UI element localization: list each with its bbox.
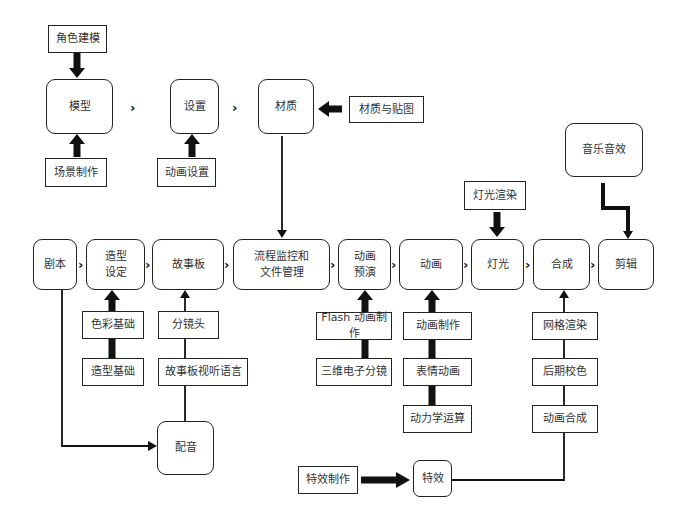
chevron-right-icon: › bbox=[145, 258, 150, 271]
color-grading-node: 后期校色 bbox=[532, 358, 598, 386]
form-basics-node: 造型基础 bbox=[82, 358, 144, 386]
dynamics-node: 动力学运算 bbox=[403, 405, 472, 433]
chevron-right-icon: › bbox=[130, 101, 135, 114]
music-sfx-node: 音乐音效 bbox=[565, 123, 643, 177]
shot-split-node: 分镜头 bbox=[158, 311, 219, 339]
chevron-right-icon: › bbox=[590, 258, 595, 271]
storyboard-av-language-node: 故事板视听语言 bbox=[158, 358, 248, 386]
light-render-node: 灯光渲染 bbox=[464, 181, 526, 210]
anim-settings-node: 动画设置 bbox=[157, 158, 216, 187]
character-modeling-node: 角色建模 bbox=[48, 25, 107, 53]
process-mgmt-node: 流程监控和 文件管理 bbox=[233, 239, 330, 290]
lighting-node: 灯光 bbox=[471, 239, 524, 290]
editing-node: 剪辑 bbox=[598, 239, 654, 290]
character-design-node: 造型 设定 bbox=[86, 239, 145, 290]
scene-making-node: 场景制作 bbox=[45, 158, 107, 187]
vfx-node: 特效 bbox=[413, 460, 452, 497]
chevron-right-icon: › bbox=[463, 258, 468, 271]
compositing-node: 合成 bbox=[533, 239, 590, 290]
chevron-right-icon: › bbox=[525, 258, 530, 271]
flash-anim-node: Flash 动画制作 bbox=[316, 312, 392, 340]
script-node: 剧本 bbox=[33, 239, 77, 290]
vfx-making-node: 特效制作 bbox=[298, 466, 358, 494]
facial-anim-node: 表情动画 bbox=[403, 358, 472, 386]
anim-preview-node: 动画 预演 bbox=[338, 239, 391, 290]
material-node: 材质 bbox=[258, 79, 314, 134]
material-mapping-node: 材质与贴图 bbox=[349, 96, 424, 123]
animation-node: 动画 bbox=[399, 239, 463, 290]
storyboard-node: 故事板 bbox=[152, 239, 224, 290]
chevron-right-icon: › bbox=[391, 258, 396, 271]
anim-composite-node: 动画合成 bbox=[532, 405, 598, 433]
color-basics-node: 色彩基础 bbox=[82, 311, 144, 339]
model-node: 模型 bbox=[46, 79, 113, 134]
chevron-right-icon: › bbox=[78, 258, 83, 271]
3d-storyboard-node: 三维电子分镜 bbox=[316, 358, 392, 386]
pipeline-diagram: 角色建模 模型 › 场景制作 设置 › 动画设置 材质 材质与贴图 音乐音效 灯… bbox=[0, 0, 686, 527]
settings-node: 设置 bbox=[170, 79, 219, 134]
mesh-render-node: 网格渲染 bbox=[532, 312, 598, 340]
dubbing-node: 配音 bbox=[157, 421, 214, 475]
anim-making-node: 动画制作 bbox=[403, 312, 472, 340]
chevron-right-icon: › bbox=[330, 258, 335, 271]
chevron-right-icon: › bbox=[232, 101, 237, 114]
chevron-right-icon: › bbox=[224, 258, 229, 271]
